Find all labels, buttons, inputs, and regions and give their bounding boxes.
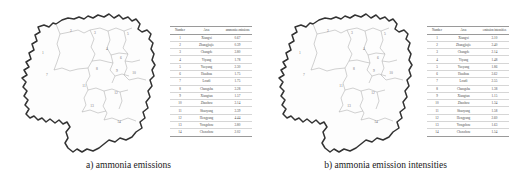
table-row: 10Zhuzhou3.14	[170, 100, 252, 107]
cell-number: 3	[427, 49, 447, 56]
cell-number: 12	[170, 114, 190, 121]
cell-value: 1.15	[480, 92, 509, 99]
svg-text:12: 12	[114, 91, 118, 95]
cell-number: 8	[170, 85, 190, 92]
table-row: 2Zhangjiajie0.39	[170, 41, 252, 48]
cell-area: Loudi	[190, 78, 223, 85]
col-header-value: ammonia emissions	[223, 27, 252, 35]
cell-number: 10	[427, 100, 447, 107]
table-row: 1Xiangxi3.10	[427, 34, 509, 41]
cell-number: 8	[427, 85, 447, 92]
cell-area: Xiangtan	[447, 92, 480, 99]
cell-area: Zhuzhou	[190, 100, 223, 107]
svg-text:11: 11	[82, 84, 86, 88]
cell-number: 13	[427, 121, 447, 128]
svg-text:1: 1	[42, 51, 44, 55]
svg-text:12: 12	[371, 91, 375, 95]
svg-text:8: 8	[353, 67, 355, 71]
cell-area: Xiangtan	[190, 92, 223, 99]
svg-text:10: 10	[132, 71, 136, 75]
cell-number: 2	[170, 41, 190, 48]
cell-area: Yongzhou	[190, 121, 223, 128]
svg-text:4: 4	[106, 47, 108, 51]
svg-text:8: 8	[96, 67, 98, 71]
cell-number: 7	[427, 78, 447, 85]
cell-area: Changde	[190, 49, 223, 56]
table-row: 9Xiangtan1.57	[170, 92, 252, 99]
cell-number: 3	[170, 49, 190, 56]
cell-area: Yiyang	[190, 56, 223, 63]
cell-value: 1.58	[480, 107, 509, 114]
table-row: 6Huaihua3.62	[427, 70, 509, 77]
map-panel-b: 2 3 5 1 4 6 9 10 7 8 11 12 13 14	[273, 6, 425, 156]
svg-text:5: 5	[384, 32, 386, 36]
caption-panel-a: a) ammonia emissions	[0, 160, 257, 170]
svg-text:9: 9	[116, 69, 118, 73]
cell-number: 4	[170, 56, 190, 63]
table-header-row: Number Area ammonia emissions	[170, 27, 252, 35]
cell-number: 1	[427, 34, 447, 41]
table-row: 4Yiyang1.78	[170, 56, 252, 63]
cell-value: 3.39	[223, 107, 252, 114]
svg-text:13: 13	[347, 104, 351, 108]
svg-text:7: 7	[46, 73, 48, 77]
cell-area: Xiangxi	[447, 34, 480, 41]
cell-area: Yueyang	[447, 63, 480, 70]
cell-number: 5	[170, 63, 190, 70]
data-table-b-wrapper: Number Area emission intensities 1Xiangx…	[427, 26, 509, 137]
svg-text:1: 1	[299, 51, 301, 55]
cell-number: 10	[170, 100, 190, 107]
cell-area: Yiyang	[447, 56, 480, 63]
table-row: 14Chenzhou1.54	[427, 129, 509, 136]
table-row: 7Loudi2.55	[427, 78, 509, 85]
cell-area: Xiangxi	[190, 34, 223, 41]
table-row: 4Yiyang1.48	[427, 56, 509, 63]
table-body-b: 1Xiangxi3.102Zhangjiajie3.403Changde2.14…	[427, 34, 509, 136]
cell-value: 2.55	[480, 78, 509, 85]
cell-number: 11	[427, 107, 447, 114]
cell-area: Changde	[447, 49, 480, 56]
table-body-a: 1Xiangxi0.672Zhangjiajie0.393Changde3.80…	[170, 34, 252, 136]
cell-area: Loudi	[447, 78, 480, 85]
cell-area: Zhangjiajie	[190, 41, 223, 48]
col-header-value: emission intensities	[480, 27, 509, 35]
table-row: 9Xiangtan1.15	[427, 92, 509, 99]
cell-area: Huaihua	[190, 70, 223, 77]
cell-area: Hengyang	[190, 114, 223, 121]
cell-value: 1.57	[223, 92, 252, 99]
cell-number: 2	[427, 41, 447, 48]
table-row: 11Shaoyang3.39	[170, 107, 252, 114]
cell-value: 1.75	[223, 70, 252, 77]
cell-area: Huaihua	[447, 70, 480, 77]
cell-number: 14	[427, 129, 447, 136]
table-row: 12Hengyang4.44	[170, 114, 252, 121]
cell-number: 9	[170, 92, 190, 99]
svg-text:9: 9	[373, 69, 375, 73]
cell-area: Shaoyang	[190, 107, 223, 114]
table-row: 7Loudi1.75	[170, 78, 252, 85]
cell-area: Chenzhou	[190, 129, 223, 136]
cell-number: 11	[170, 107, 190, 114]
svg-text:6: 6	[377, 56, 379, 60]
cell-area: Yueyang	[190, 63, 223, 70]
table-row: 5Yueyang2.30	[170, 63, 252, 70]
svg-text:7: 7	[303, 73, 305, 77]
table-row: 11Shaoyang1.58	[427, 107, 509, 114]
cell-number: 12	[427, 114, 447, 121]
col-header-area: Area	[447, 27, 480, 35]
cell-area: Hengyang	[447, 114, 480, 121]
cell-value: 3.14	[223, 100, 252, 107]
table-header-row: Number Area emission intensities	[427, 27, 509, 35]
svg-text:2: 2	[70, 29, 72, 33]
table-row: 1Xiangxi0.67	[170, 34, 252, 41]
table-row: 5Yueyang1.86	[427, 63, 509, 70]
cell-value: 0.39	[223, 41, 252, 48]
table-row: 10Zhuzhou1.34	[427, 100, 509, 107]
svg-text:13: 13	[90, 104, 94, 108]
cell-number: 14	[170, 129, 190, 136]
cell-area: Shaoyang	[447, 107, 480, 114]
cell-value: 1.75	[223, 78, 252, 85]
data-table-a: Number Area ammonia emissions 1Xiangxi0.…	[170, 26, 252, 137]
cell-area: Changsha	[190, 85, 223, 92]
cell-area: Yongzhou	[447, 121, 480, 128]
